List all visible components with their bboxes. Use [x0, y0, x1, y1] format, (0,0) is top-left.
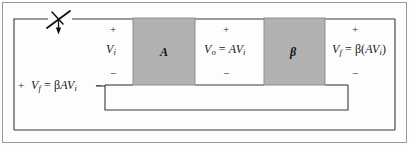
inner-feedback-loop-wire	[105, 85, 348, 110]
input-voltage-label: Vi	[106, 43, 116, 57]
output-voltage-label: Vo = AVi	[204, 43, 246, 57]
amplifier-block-label: A	[160, 46, 168, 58]
feedback-voltage-right-label: Vf = β(AVi)	[332, 43, 386, 57]
feedback-amplifier-figure: + − + − + − + − A β Vi Vo = AVi Vf = β(A…	[0, 0, 410, 146]
polarity-vf-minus: −	[352, 68, 358, 79]
polarity-vo-minus: −	[223, 68, 229, 79]
polarity-vfl-plus: +	[18, 80, 24, 91]
top-rail-wire	[14, 19, 48, 28]
circuit-diagram-svg	[0, 0, 410, 146]
input-switch-icon	[47, 11, 70, 35]
polarity-vo-plus: +	[223, 24, 229, 35]
polarity-vi-minus: −	[110, 68, 116, 79]
feedback-voltage-left-label: Vf = βAVi	[31, 79, 77, 93]
polarity-vfl-minus: −	[95, 80, 101, 91]
feedback-block-label: β	[290, 46, 296, 58]
polarity-vf-plus: +	[352, 24, 358, 35]
polarity-vi-plus: +	[110, 24, 116, 35]
